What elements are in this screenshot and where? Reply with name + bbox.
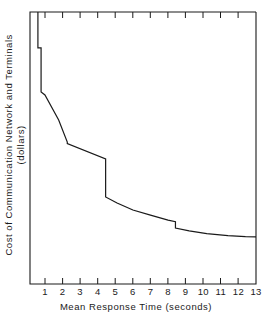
bottom-axis-ticks	[45, 278, 238, 284]
x-tick-label-8: 8	[165, 286, 171, 297]
x-tick-label-13: 13	[250, 286, 261, 297]
x-tick-label-12: 12	[233, 286, 244, 297]
x-tick-label-2: 2	[60, 286, 66, 297]
x-axis-label: Mean Response Time (seconds)	[0, 301, 272, 312]
axis-frame	[30, 12, 256, 284]
x-tick-label-5: 5	[113, 286, 119, 297]
top-axis-ticks	[45, 12, 238, 18]
x-tick-label-9: 9	[183, 286, 189, 297]
x-tick-label-6: 6	[130, 286, 136, 297]
x-tick-label-10: 10	[198, 286, 209, 297]
plot-area	[0, 0, 272, 318]
x-tick-label-7: 7	[148, 286, 154, 297]
x-tick-label-11: 11	[216, 286, 226, 297]
x-tick-label-1: 1	[42, 286, 48, 297]
x-axis-tick-labels: 12345678910111213	[0, 286, 272, 302]
data-curve-cost	[38, 12, 256, 237]
chart-container: Cost of Communication Network and Termin…	[0, 0, 272, 318]
x-tick-label-4: 4	[95, 286, 101, 297]
x-tick-label-3: 3	[77, 286, 83, 297]
